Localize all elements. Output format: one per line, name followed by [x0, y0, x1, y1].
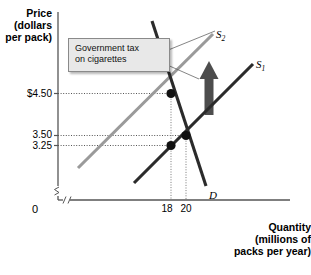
curve-label-s2-sub: 2 — [222, 34, 226, 43]
curve-label-s1-sub: 1 — [262, 64, 266, 73]
x-tick-label-18: 18 — [157, 203, 177, 214]
x-axis-title-line1: Quantity — [268, 221, 311, 233]
y-tick-label-350: 3.50 — [2, 129, 52, 140]
y-axis-title: Price(dollarsper pack) — [0, 8, 52, 43]
government-tax-callout-line2: on cigarettes — [75, 54, 127, 64]
x-axis-title-line2: (millions of — [255, 233, 311, 245]
y-tick-label-325: 3.25 — [2, 140, 52, 151]
x-axis-title-line3: packs per year) — [234, 245, 311, 257]
x-axis-break-icon — [63, 197, 71, 204]
x-tick-label-20: 20 — [176, 203, 196, 214]
x-axis-title: Quantity(millions ofpacks per year) — [215, 222, 311, 257]
y-axis-title-line3: per pack) — [5, 31, 52, 43]
origin-label: 0 — [28, 203, 42, 215]
point-equilibrium-after-tax — [166, 89, 175, 98]
y-axis-break-icon — [55, 187, 60, 195]
y-axis-title-line1: Price — [26, 7, 52, 19]
curve-label-s1: S1 — [256, 58, 265, 74]
point-net-price-to-sellers — [166, 141, 175, 150]
government-tax-callout: Government taxon cigarettes — [68, 38, 170, 72]
y-tick-label-450: $4.50 — [2, 88, 52, 99]
curve-label-d: D — [209, 189, 217, 201]
supply-demand-chart: Price(dollarsper pack) Quantity(millions… — [0, 0, 311, 275]
supply-curve-s1 — [134, 64, 253, 183]
curve-label-d-text: D — [209, 189, 217, 201]
government-tax-callout-line1: Government tax — [75, 43, 139, 53]
curve-label-s2: S2 — [216, 28, 225, 44]
point-equilibrium-before-tax — [181, 131, 190, 140]
y-axis-title-line2: (dollars — [14, 19, 52, 31]
